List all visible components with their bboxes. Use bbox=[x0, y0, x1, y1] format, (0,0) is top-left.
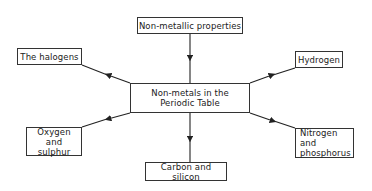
node-label: Hydrogen bbox=[298, 55, 340, 65]
node-label: The halogens bbox=[20, 52, 78, 62]
concept-map: Non-metallic properties Non-metals in th… bbox=[0, 0, 372, 191]
arrow-to-halogens bbox=[108, 75, 130, 83]
node-oxygen-sulphur: Oxygen and sulphur bbox=[26, 127, 82, 156]
node-halogens: The halogens bbox=[17, 48, 82, 65]
node-label: Oxygen and sulphur bbox=[33, 127, 75, 157]
arrow-to-oxygen bbox=[108, 113, 130, 119]
node-nitrogen-phosphorus: Nitrogen and phosphorus bbox=[295, 128, 354, 158]
arrow-to-nitrogen bbox=[250, 113, 273, 121]
node-label: Non-metallic properties bbox=[139, 21, 241, 31]
arrow-to-hydrogen bbox=[250, 75, 272, 83]
node-hydrogen: Hydrogen bbox=[295, 51, 343, 68]
node-label: Carbon and silicon bbox=[146, 162, 226, 182]
node-center-non-metals: Non-metals in the Periodic Table bbox=[130, 83, 250, 113]
node-non-metallic-properties: Non-metallic properties bbox=[137, 17, 243, 34]
node-label: Nitrogen and phosphorus bbox=[300, 128, 351, 158]
node-carbon-silicon: Carbon and silicon bbox=[145, 162, 227, 181]
center-label: Non-metals in the Periodic Table bbox=[139, 88, 241, 108]
